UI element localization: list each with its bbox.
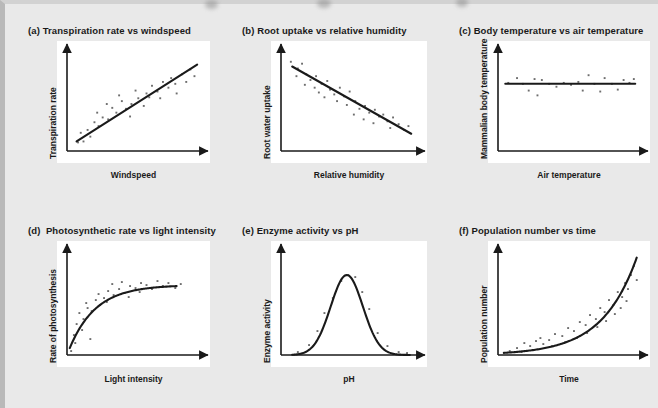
panel-f-x-axis-label: Time xyxy=(488,374,650,384)
panel-b: (b) Root uptake vs relative humidityRela… xyxy=(224,8,440,208)
panel-a-title: (a) Transpiration rate vs windspeed xyxy=(28,25,191,36)
panel-f-plot-area xyxy=(488,241,650,367)
panel-d-title: (d) Photosynthetic rate vs light intensi… xyxy=(28,225,216,236)
panel-d-plot-area xyxy=(57,241,210,367)
panel-c-x-axis-label: Air temperature xyxy=(488,170,650,180)
panel-d-trend-line xyxy=(70,286,177,348)
panel-c-title: (c) Body temperature vs air temperature xyxy=(459,25,643,36)
panel-a-y-axis-label: Transpiration rate xyxy=(48,87,58,159)
panel-f-trend-line xyxy=(504,258,637,353)
panel-c-chart xyxy=(488,41,650,163)
panel-c-data-points xyxy=(507,74,634,96)
panel-e-title: (e) Enzyme activity vs pH xyxy=(242,225,359,236)
panel-c: (c) Body temperature vs air temperatureA… xyxy=(441,8,658,208)
panel-b-trend-line xyxy=(292,67,411,134)
panel-f-title: (f) Population number vs time xyxy=(459,225,596,236)
panel-c-y-axis-label: Mammalian body temperature xyxy=(479,39,489,159)
panel-d-chart xyxy=(57,241,210,367)
panel-b-title: (b) Root uptake vs relative humidity xyxy=(242,25,407,36)
panel-e-plot-area xyxy=(271,241,427,367)
figure-page: (a) Transpiration rate vs windspeedWinds… xyxy=(0,0,658,408)
panel-e: (e) Enzyme activity vs pHpHEnzyme activi… xyxy=(224,208,440,408)
panel-grid: (a) Transpiration rate vs windspeedWinds… xyxy=(5,4,658,408)
panel-f: (f) Population number vs timeTimePopulat… xyxy=(441,208,658,408)
panel-d-y-axis-label: Rate of photosynthesis xyxy=(48,269,58,363)
panel-b-x-axis-label: Relative humidity xyxy=(271,170,427,180)
panel-a-x-axis-label: Windspeed xyxy=(57,170,210,180)
panel-b-chart xyxy=(271,41,427,163)
panel-d-data-points xyxy=(70,280,181,352)
panel-f-y-axis-label: Population number xyxy=(479,286,489,363)
panel-a-data-points xyxy=(77,69,195,144)
panel-e-y-axis-label: Enzyme activity xyxy=(262,299,272,363)
panel-e-chart xyxy=(271,241,427,367)
panel-e-trend-line xyxy=(292,275,410,355)
panel-a-plot-area xyxy=(57,41,210,163)
panel-a-trend-line xyxy=(77,65,198,142)
panel-b-plot-area xyxy=(271,41,427,163)
panel-e-x-axis-label: pH xyxy=(271,374,427,384)
panel-b-y-axis-label: Root water uptake xyxy=(262,85,272,159)
panel-d-x-axis-label: Light intensity xyxy=(57,374,210,384)
panel-a: (a) Transpiration rate vs windspeedWinds… xyxy=(10,8,223,208)
panel-c-plot-area xyxy=(488,41,650,163)
panel-f-chart xyxy=(488,241,650,367)
panel-b-data-points xyxy=(290,61,410,131)
panel-a-chart xyxy=(57,41,210,163)
panel-e-data-points xyxy=(297,274,408,354)
panel-d: (d) Photosynthetic rate vs light intensi… xyxy=(10,208,223,408)
